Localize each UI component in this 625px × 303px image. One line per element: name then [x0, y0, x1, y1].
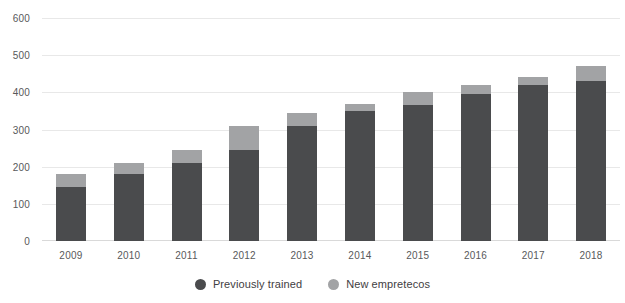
bar-segment-new-empretecos[interactable]: [576, 66, 606, 81]
bar-segment-previously-trained[interactable]: [345, 111, 375, 241]
y-tick-label-200: 200: [0, 161, 30, 172]
bar-segment-previously-trained[interactable]: [403, 105, 433, 241]
legend-swatch-circle-icon: [195, 279, 206, 290]
x-tick-label-2011: 2011: [175, 250, 197, 261]
bar-group[interactable]: [345, 104, 375, 242]
bar-segment-previously-trained[interactable]: [229, 150, 259, 241]
bar-segment-new-empretecos[interactable]: [461, 85, 491, 94]
x-tick-label-2015: 2015: [406, 250, 429, 261]
bar-group[interactable]: [229, 126, 259, 241]
bar-segment-new-empretecos[interactable]: [287, 113, 317, 126]
bar-segment-new-empretecos[interactable]: [56, 174, 86, 187]
x-tick-label-2017: 2017: [522, 250, 545, 261]
legend-label: Previously trained: [213, 278, 302, 290]
bar-segment-new-empretecos[interactable]: [172, 150, 202, 163]
bar-segment-previously-trained[interactable]: [172, 163, 202, 241]
bar-segment-new-empretecos[interactable]: [518, 77, 548, 84]
bar-segment-new-empretecos[interactable]: [403, 92, 433, 105]
y-tick-label-400: 400: [0, 87, 30, 98]
chart-legend: Previously trainedNew empretecos: [0, 278, 625, 290]
bar-segment-previously-trained[interactable]: [56, 187, 86, 241]
bar-group[interactable]: [576, 66, 606, 241]
x-tick-label-2009: 2009: [59, 250, 82, 261]
bar-segment-new-empretecos[interactable]: [345, 104, 375, 111]
x-tick-label-2010: 2010: [117, 250, 140, 261]
bar-segment-previously-trained[interactable]: [518, 85, 548, 241]
bar-segment-new-empretecos[interactable]: [229, 126, 259, 150]
x-tick-label-2014: 2014: [348, 250, 371, 261]
stacked-bar-chart: 0100200300400500600 20092010201120122013…: [0, 0, 625, 303]
y-tick-label-100: 100: [0, 198, 30, 209]
legend-swatch-circle-icon: [328, 279, 339, 290]
y-tick-label-300: 300: [0, 124, 30, 135]
bar-group[interactable]: [287, 113, 317, 241]
x-tick-label-2012: 2012: [233, 250, 256, 261]
legend-item[interactable]: Previously trained: [195, 278, 302, 290]
bar-segment-new-empretecos[interactable]: [114, 163, 144, 174]
bar-group[interactable]: [518, 77, 548, 241]
x-tick-label-2013: 2013: [291, 250, 314, 261]
legend-label: New empretecos: [346, 278, 430, 290]
bar-group[interactable]: [114, 163, 144, 241]
legend-item[interactable]: New empretecos: [328, 278, 430, 290]
bar-segment-previously-trained[interactable]: [114, 174, 144, 241]
bars-layer: [42, 18, 620, 241]
plot-area: [42, 18, 620, 241]
y-tick-label-500: 500: [0, 50, 30, 61]
bar-segment-previously-trained[interactable]: [576, 81, 606, 241]
bar-segment-previously-trained[interactable]: [461, 94, 491, 241]
x-tick-label-2018: 2018: [580, 250, 603, 261]
y-tick-label-600: 600: [0, 13, 30, 24]
bar-group[interactable]: [172, 150, 202, 241]
bar-segment-previously-trained[interactable]: [287, 126, 317, 241]
bar-group[interactable]: [461, 85, 491, 241]
x-tick-label-2016: 2016: [464, 250, 487, 261]
bar-group[interactable]: [403, 92, 433, 241]
y-tick-label-0: 0: [0, 236, 30, 247]
bar-group[interactable]: [56, 174, 86, 241]
